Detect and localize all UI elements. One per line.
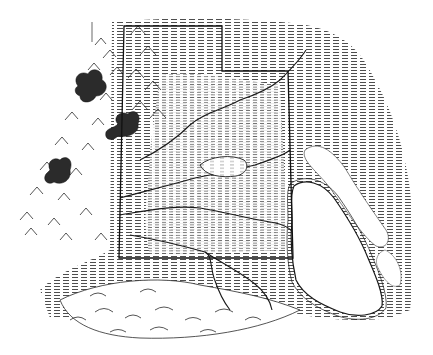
- relief-map: [0, 0, 433, 355]
